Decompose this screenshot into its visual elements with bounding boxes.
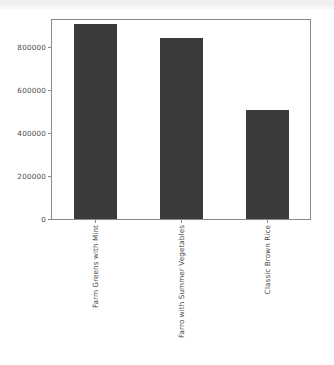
y-axis-tick-label: 800000	[17, 43, 46, 52]
bar	[74, 24, 117, 219]
y-axis-tick-mark	[48, 219, 52, 220]
y-axis-tick-label: 600000	[17, 86, 46, 95]
top-decorative-band-secondary	[0, 6, 334, 9]
plot-area: 0200000400000600000800000 Farm Greens wi…	[51, 19, 311, 220]
y-axis-tick-mark	[48, 133, 52, 134]
x-axis-tick-label: Farro with Summer Vegetables	[177, 225, 186, 338]
bar	[246, 110, 289, 219]
chart-figure: 0200000400000600000800000 Farm Greens wi…	[0, 0, 334, 365]
y-axis-tick-mark	[48, 90, 52, 91]
bar	[160, 38, 203, 219]
y-axis-tick-label: 400000	[17, 129, 46, 138]
x-axis-tick-label: Farm Greens with Mint	[91, 225, 100, 308]
y-axis-tick-mark	[48, 47, 52, 48]
x-axis-tick-mark	[181, 219, 182, 223]
y-axis-tick-label: 200000	[17, 172, 46, 181]
x-axis-tick-mark	[95, 219, 96, 223]
x-axis-tick-label: Classic Brown Rice	[263, 225, 272, 294]
y-axis-tick-mark	[48, 176, 52, 177]
x-axis-tick-mark	[267, 219, 268, 223]
y-axis-tick-label: 0	[41, 215, 46, 224]
